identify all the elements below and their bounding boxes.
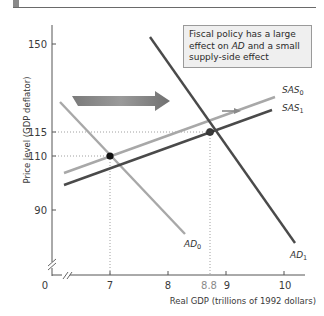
guide-lines <box>52 132 210 275</box>
annotation-textbox: Fiscal policy has a large effect on AD a… <box>183 25 312 68</box>
x-axis <box>52 271 305 279</box>
y-axis <box>48 25 56 276</box>
y-tick-90: 90 <box>34 205 47 216</box>
sas0-label: SAS0 <box>282 85 304 97</box>
new-equilibrium-point <box>206 128 213 135</box>
note-line-3: supply-side effect <box>189 52 306 64</box>
y-axis-title: Price level (GDP deflator) <box>22 76 32 183</box>
x-tick-7: 7 <box>107 280 113 291</box>
note-line-1: Fiscal policy has a large <box>189 29 306 41</box>
sas1-curve <box>64 110 272 185</box>
note-line-2: effect on AD and a small <box>189 41 306 53</box>
ad0-label: AD0 <box>183 239 201 251</box>
x-axis-title: Real GDP (trillions of 1992 dollars) <box>170 296 316 306</box>
sas1-label: SAS1 <box>282 103 304 115</box>
x-tick-8: 8 <box>165 280 171 291</box>
ad-shift-arrow <box>72 91 170 111</box>
x-tick-0: 0 <box>42 280 48 291</box>
x-tick-10: 10 <box>279 280 292 291</box>
ad1-label: AD1 <box>289 250 307 262</box>
initial-equilibrium-point <box>106 152 113 159</box>
sas0-curve <box>64 97 275 173</box>
x-tick-8-8: 8.8 <box>201 280 217 291</box>
x-tick-9: 9 <box>224 280 230 291</box>
y-tick-150: 150 <box>28 39 47 50</box>
